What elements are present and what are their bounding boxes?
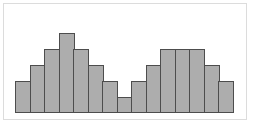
page-background <box>0 0 263 132</box>
histogram-chart <box>15 33 234 113</box>
figure-panel <box>3 3 247 120</box>
histogram-bar <box>218 81 234 113</box>
